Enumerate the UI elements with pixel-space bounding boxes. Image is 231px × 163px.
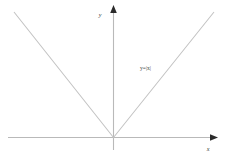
plot-canvas: y x y=|x| [0,0,231,163]
absolute-value-graph-figure: y x y=|x| [0,0,231,163]
x-axis-arrowhead [210,134,218,141]
x-axis-label: x [206,145,210,152]
y-axis-arrowhead [110,5,117,13]
curve-equation-label: y=|x| [140,65,151,71]
y-axis-label: y [98,11,102,18]
